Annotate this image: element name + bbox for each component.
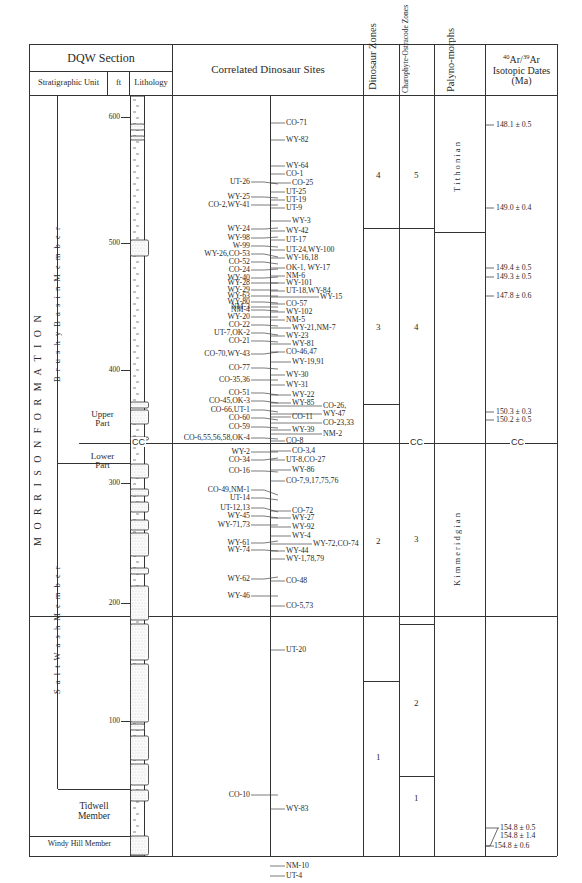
site-connector — [251, 498, 278, 500]
site-connector — [251, 368, 278, 369]
site-label-co-2-wy-41: CO-2,WY-41 — [208, 201, 250, 209]
site-label-wy-16-18: WY-16,18 — [286, 254, 318, 262]
site-label-co-3-4: CO-3,4 — [292, 447, 315, 455]
site-connector — [251, 341, 278, 342]
site-connector — [251, 427, 278, 428]
isotopic-date-label: 149.0 ± 0.4 — [496, 204, 531, 212]
site-label-wy-45: WY-45 — [227, 512, 250, 520]
site-label-co-70-wy-43: CO-70,WY-43 — [204, 350, 250, 358]
site-label-wy-15: WY-15 — [320, 293, 343, 301]
site-label-wy-71-73: WY-71,73 — [218, 521, 250, 529]
site-label-wy-4: WY-4 — [292, 532, 311, 540]
isotopic-date-label: 148.1 ± 0.5 — [496, 121, 531, 129]
site-label-wy-30: WY-30 — [286, 371, 309, 379]
site-connector — [251, 277, 278, 278]
site-connector — [251, 197, 278, 198]
site-label-wy-47: WY-47 — [323, 410, 346, 418]
site-label-co-6-55-56-58-ok-4: CO-6,55,56,58,OK-4 — [184, 434, 250, 442]
site-label-wy-82: WY-82 — [286, 136, 309, 144]
site-label-co-16: CO-16 — [229, 467, 250, 475]
site-label-co-7-9-17-75-76: CO-7,9,17,75,76 — [286, 477, 338, 485]
site-label-wy-3: WY-3 — [292, 217, 311, 225]
site-label-wy-27: WY-27 — [292, 514, 315, 522]
site-label-co-11: CO-11 — [292, 413, 313, 421]
site-connector — [251, 418, 278, 420]
isotopic-date-label: 149.3 ± 0.5 — [496, 273, 531, 281]
site-label-co-21: CO-21 — [229, 337, 250, 345]
site-connector — [251, 254, 278, 257]
site-label-wy-39: WY-39 — [292, 426, 315, 434]
site-label-co-1: CO-1 — [286, 170, 303, 178]
site-label-ut-17: UT-17 — [286, 236, 306, 244]
site-connector — [251, 333, 278, 335]
site-label-co-10: CO-10 — [229, 791, 250, 799]
site-connector — [251, 410, 278, 412]
site-connector — [251, 490, 278, 495]
site-label-wy-85: WY-85 — [292, 399, 315, 407]
site-connector — [251, 508, 278, 512]
site-connector — [251, 269, 278, 270]
site-label-co-5-73: CO-5,73 — [286, 602, 313, 610]
site-label-co-77: CO-77 — [229, 364, 250, 372]
site-label-wy-46: WY-46 — [227, 592, 250, 600]
site-label-wy-92: WY-92 — [292, 523, 315, 531]
site-label-wy-62: WY-62 — [227, 575, 250, 583]
site-label-ut-9: UT-9 — [286, 204, 302, 212]
site-label-wy-19-91: WY-19,91 — [292, 358, 324, 366]
isotopic-date-label: 147.8 ± 0.6 — [496, 292, 531, 300]
site-label-co-46-47: CO-46,47 — [286, 348, 317, 356]
site-connector — [251, 541, 278, 543]
site-label-wy-42: WY-42 — [286, 227, 309, 235]
site-label-co-34: CO-34 — [229, 456, 250, 464]
site-connector — [251, 310, 278, 311]
site-label-wy-86: WY-86 — [292, 466, 315, 474]
site-label-nm-2: NM-2 — [323, 430, 342, 438]
site-connector — [251, 246, 278, 247]
isotopic-date-label: 154.8 ± 1.4 — [500, 832, 535, 840]
site-connector — [251, 302, 278, 303]
isotopic-date-label: 154.8 ± 0.6 — [494, 842, 529, 850]
site-label-co-25: CO-25 — [292, 179, 313, 187]
site-label-ut-14: UT-14 — [230, 494, 250, 502]
isotopic-date-label: 150.2 ± 0.5 — [496, 416, 531, 424]
site-label-co-45-ok-3: CO-45,OK-3 — [209, 397, 250, 405]
site-label-ut-4: UT-4 — [286, 872, 302, 880]
site-connector — [251, 325, 278, 326]
site-connector — [251, 577, 278, 579]
site-label-co-48: CO-48 — [286, 577, 307, 585]
site-connector — [251, 262, 278, 264]
site-label-co-35-36: CO-35,36 — [219, 376, 250, 384]
site-connector — [251, 471, 278, 472]
site-label-wy-72-co-74: WY-72,CO-74 — [313, 540, 359, 548]
site-label-co-23-33: CO-23,33 — [323, 419, 354, 427]
site-label-nm-10: NM-10 — [286, 862, 309, 870]
site-label-wy-1-78-79: WY-1,78,79 — [286, 555, 324, 563]
site-label-co-71: CO-71 — [286, 119, 307, 127]
site-label-ut-8-co-27: UT-8,CO-27 — [286, 456, 325, 464]
site-label-wy-24: WY-24 — [227, 225, 250, 233]
site-connector — [251, 438, 278, 439]
site-label-ut-26: UT-26 — [230, 178, 250, 186]
site-label-co-60: CO-60 — [229, 414, 250, 422]
site-connector — [251, 228, 278, 229]
site-label-co-59: CO-59 — [229, 423, 250, 431]
site-label-wy-83: WY-83 — [286, 805, 309, 813]
site-label-wy-31: WY-31 — [286, 381, 309, 389]
site-label-wy-74: WY-74 — [227, 546, 250, 554]
site-label-co-8: CO-8 — [286, 437, 303, 445]
site-label-ut-20: UT-20 — [286, 646, 306, 654]
site-connector — [251, 237, 278, 238]
isotopic-date-label: 149.4 ± 0.5 — [496, 264, 531, 272]
